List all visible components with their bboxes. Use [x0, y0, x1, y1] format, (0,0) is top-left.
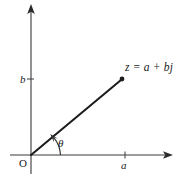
argand-diagram-figure: z = a + bj b a θ O — [0, 0, 182, 180]
point-z-marker — [120, 77, 125, 82]
point-z-label: z = a + bj — [124, 61, 173, 74]
figure-background — [0, 0, 182, 180]
origin-label: O — [19, 157, 27, 169]
argand-diagram-canvas: z = a + bj b a θ O — [0, 0, 182, 180]
x-tick-label-a: a — [121, 159, 127, 171]
angle-label-theta: θ — [58, 137, 64, 149]
y-tick-label-b: b — [20, 73, 26, 85]
